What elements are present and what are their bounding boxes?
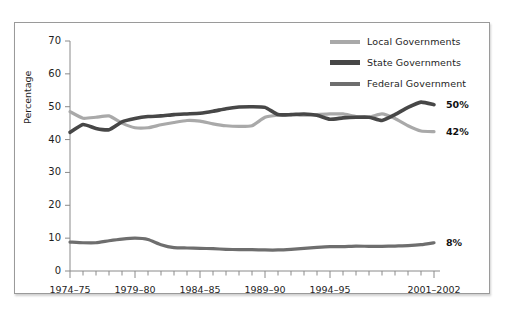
y-tick-label: 20 [39,199,61,210]
legend-swatch-local-governments [330,40,360,44]
legend-label-local-governments: Local Governments [367,36,461,47]
y-tick-label: 70 [39,35,61,46]
y-tick-label: 30 [39,166,61,177]
y-tick-label: 50 [39,101,61,112]
legend-swatch-state-governments [330,60,360,65]
x-tick-label: 1984–85 [179,284,220,295]
x-tick-label: 2001–2002 [407,284,460,295]
legend-label-state-governments: State Governments [367,57,461,68]
x-tick-label: 1974–75 [49,284,90,295]
series-line-state-governments [70,102,434,132]
chart-figure: Percentage Local Governments State Gover… [0,0,508,315]
annotation-local-end-value: 42% [446,126,469,137]
chart-legend: Local Governments State Governments Fede… [330,33,490,96]
x-tick-label: 1994–95 [309,284,350,295]
y-tick-label: 10 [39,232,61,243]
legend-item-federal-government[interactable]: Federal Government [330,75,490,92]
series-line-federal-government [70,238,434,250]
legend-label-federal-government: Federal Government [367,78,466,89]
y-tick-label: 40 [39,134,61,145]
y-tick-label: 60 [39,68,61,79]
legend-swatch-federal-government [330,82,360,86]
legend-item-local-governments[interactable]: Local Governments [330,33,490,50]
x-tick-label: 1989–90 [244,284,285,295]
x-tick-label: 1979–80 [114,284,155,295]
legend-item-state-governments[interactable]: State Governments [330,54,490,71]
y-tick-label: 0 [39,265,61,276]
annotation-state-end-value: 50% [446,99,469,110]
annotation-federal-end-value: 8% [446,237,462,248]
